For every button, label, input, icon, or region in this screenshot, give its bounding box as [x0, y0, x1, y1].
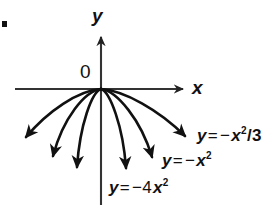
equation-3-minus: −4	[131, 178, 153, 197]
equation-2-base: x	[196, 151, 206, 170]
equation-3-base: x	[153, 178, 163, 197]
y-axis-label: y	[92, 6, 103, 25]
parabola-family-figure: y x 0 y=−x2/3 y=−x2 y=−4x2	[0, 0, 278, 205]
equation-1-equals: =	[207, 126, 219, 145]
equation-1-tail: /3	[247, 126, 262, 145]
equation-2-variable: y	[162, 151, 172, 170]
equation-2-minus: −	[184, 151, 196, 170]
equation-label-x2-over-3: y=−x2/3	[197, 127, 262, 144]
origin-label: 0	[80, 62, 91, 81]
equation-1-base: x	[231, 126, 241, 145]
equation-2-equals: =	[172, 151, 184, 170]
x-axis-label: x	[192, 78, 203, 97]
equation-2-exponent: 2	[206, 150, 212, 161]
equation-1-variable: y	[197, 126, 207, 145]
curve-x2-left-branch	[53, 89, 101, 156]
graph-canvas	[0, 0, 278, 205]
equation-3-exponent: 2	[163, 177, 169, 188]
equation-1-minus: −	[219, 126, 231, 145]
equation-label-x2: y=−x2	[162, 152, 212, 169]
equation-label-4x2: y=−4x2	[109, 179, 169, 196]
equation-3-equals: =	[119, 178, 131, 197]
equation-3-variable: y	[109, 178, 119, 197]
